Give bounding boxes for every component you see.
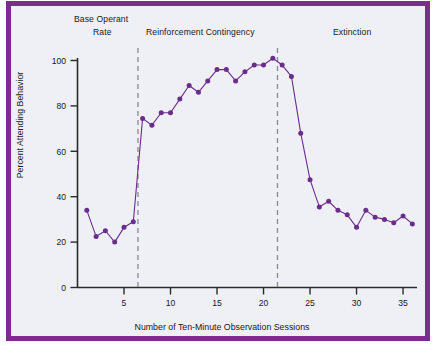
data-line (87, 58, 413, 242)
data-point (112, 240, 117, 245)
data-point (122, 225, 127, 230)
data-point (270, 56, 275, 61)
y-tick-label: 0 (61, 283, 66, 293)
data-point (103, 228, 108, 233)
x-tick-label: 25 (305, 298, 315, 308)
data-point (354, 225, 359, 230)
data-point (261, 63, 266, 68)
data-point (308, 177, 313, 182)
data-point (382, 217, 387, 222)
data-point (373, 215, 378, 220)
data-point (215, 67, 220, 72)
data-point (233, 78, 238, 83)
y-tick-label: 80 (56, 101, 66, 111)
data-point (94, 234, 99, 239)
data-point (140, 116, 145, 121)
y-axis-ticks: 020406080100 (52, 56, 78, 293)
phase-divider-lines (138, 48, 278, 288)
data-point (326, 199, 331, 204)
x-tick-label: 10 (166, 298, 176, 308)
data-point (149, 123, 154, 128)
x-axis-title: Number of Ten-Minute Observation Session… (0, 322, 444, 332)
data-point (131, 219, 136, 224)
x-tick-label: 5 (122, 298, 127, 308)
figure-container: Base Operant Rate Reinforcement Continge… (0, 0, 444, 353)
y-axis-title: Percent Attending Behavior (15, 45, 25, 205)
data-point (84, 208, 89, 213)
x-tick-label: 20 (259, 298, 269, 308)
data-point (242, 69, 247, 74)
line-chart: 020406080100 5101520253035 (0, 0, 444, 353)
x-tick-label: 15 (212, 298, 222, 308)
data-point (177, 97, 182, 102)
data-point (159, 110, 164, 115)
data-point (205, 78, 210, 83)
data-point (196, 90, 201, 95)
data-point (335, 208, 340, 213)
y-tick-label: 40 (56, 192, 66, 202)
data-point (224, 67, 229, 72)
data-point (317, 204, 322, 209)
data-point (345, 212, 350, 217)
data-point (401, 214, 406, 219)
x-tick-label: 35 (398, 298, 408, 308)
data-point (168, 110, 173, 115)
data-point (363, 208, 368, 213)
x-tick-label: 30 (352, 298, 362, 308)
data-point (410, 221, 415, 226)
data-point (289, 74, 294, 79)
x-axis-ticks: 5101520253035 (122, 288, 408, 309)
data-point (298, 131, 303, 136)
y-tick-label: 20 (56, 237, 66, 247)
data-point (252, 63, 257, 68)
data-point (391, 220, 396, 225)
y-tick-label: 60 (56, 147, 66, 157)
y-tick-label: 100 (52, 56, 67, 66)
data-point (187, 83, 192, 88)
data-point (280, 63, 285, 68)
